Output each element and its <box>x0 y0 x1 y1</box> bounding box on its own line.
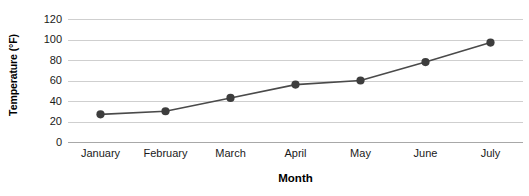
data-point-marker <box>486 38 494 46</box>
x-tick-label: February <box>143 148 187 159</box>
x-axis-line <box>68 142 523 143</box>
y-tick-label: 60 <box>26 75 62 86</box>
series-plot <box>68 19 523 142</box>
series-markers <box>96 38 494 118</box>
data-point-marker <box>291 81 299 89</box>
y-tick-label: 120 <box>26 14 62 25</box>
y-tick-label: 0 <box>26 137 62 148</box>
y-axis-title-label: Temperature (°F) <box>7 34 19 116</box>
x-tick-label: May <box>350 148 371 159</box>
y-tick-label: 80 <box>26 55 62 66</box>
plot-area <box>68 19 523 142</box>
y-tick-label: 100 <box>26 34 62 45</box>
y-axis-title: Temperature (°F) <box>0 0 26 150</box>
data-point-marker <box>226 94 234 102</box>
x-tick-label: March <box>215 148 246 159</box>
x-tick-label: July <box>481 148 501 159</box>
data-point-marker <box>356 76 364 84</box>
y-tick-label: 20 <box>26 116 62 127</box>
x-axis-title: Month <box>68 172 523 184</box>
x-tick-label: January <box>81 148 120 159</box>
data-point-marker <box>96 110 104 118</box>
data-point-marker <box>421 58 429 66</box>
x-tick-label: April <box>284 148 306 159</box>
y-tick-label: 40 <box>26 96 62 107</box>
x-tick-label: June <box>414 148 438 159</box>
temperature-line-chart: Temperature (°F) 020406080100120 January… <box>0 0 529 196</box>
series-line <box>101 43 491 115</box>
data-point-marker <box>161 107 169 115</box>
